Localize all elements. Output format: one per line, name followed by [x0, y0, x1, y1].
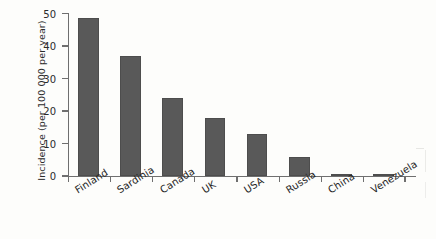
bar [162, 98, 183, 176]
x-axis-label-usa: USA [242, 175, 266, 195]
bar [247, 134, 268, 176]
y-tick-mark [62, 143, 68, 144]
x-tick-mark [194, 177, 195, 182]
y-tick-label: 0 [34, 171, 56, 182]
scan-artifact [425, 182, 426, 198]
y-tick-label: 40 [34, 41, 56, 52]
y-tick-mark [62, 78, 68, 79]
x-tick-mark [68, 177, 69, 182]
y-tick-label: 30 [34, 73, 56, 84]
bar [205, 118, 226, 176]
bar [120, 56, 141, 176]
y-axis-title: Incidence (per 100 000 per year) [36, 13, 47, 189]
y-tick-mark [62, 45, 68, 46]
x-tick-mark [321, 177, 322, 182]
y-tick-mark [62, 13, 68, 14]
x-tick-mark [363, 177, 364, 182]
x-tick-mark [404, 177, 405, 182]
x-tick-mark [236, 177, 237, 182]
scan-artifact [425, 150, 426, 172]
bar [78, 18, 99, 176]
y-tick-label: 50 [34, 8, 56, 19]
y-tick-label: 20 [34, 106, 56, 117]
x-tick-mark [152, 177, 153, 182]
scan-artifact [416, 148, 424, 149]
y-tick-mark [62, 110, 68, 111]
bar-chart-figure: Incidence (per 100 000 per year) 0102030… [0, 0, 436, 239]
x-tick-mark [110, 177, 111, 182]
x-tick-mark [279, 177, 280, 182]
y-tick-label: 10 [34, 138, 56, 149]
x-axis-label-uk: UK [200, 179, 218, 196]
y-axis-line [68, 13, 69, 177]
